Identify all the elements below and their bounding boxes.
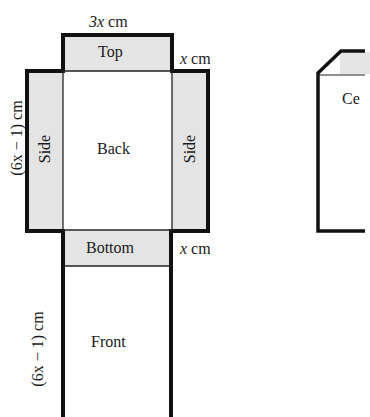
front-height-label: (6x − 1) cm <box>29 304 47 394</box>
side-right-label: Side <box>181 129 199 169</box>
side-left-label: Side <box>36 129 54 169</box>
top-depth-unit: cm <box>187 50 211 67</box>
back-height-label: (6x − 1) cm <box>8 93 26 183</box>
top-depth-label: x cm <box>180 50 211 68</box>
back-label: Back <box>97 140 130 158</box>
bottom-depth-unit: cm <box>187 240 211 257</box>
front-label: Front <box>91 333 126 351</box>
width-dimension-label: 3x cm <box>89 13 128 31</box>
top-label: Top <box>98 43 123 61</box>
width-variable: 3x <box>89 13 104 30</box>
bottom-depth-label: x cm <box>180 240 211 258</box>
bottom-label: Bottom <box>86 239 134 257</box>
cereal-box-label: Ce <box>342 90 360 108</box>
width-unit: cm <box>104 13 128 30</box>
